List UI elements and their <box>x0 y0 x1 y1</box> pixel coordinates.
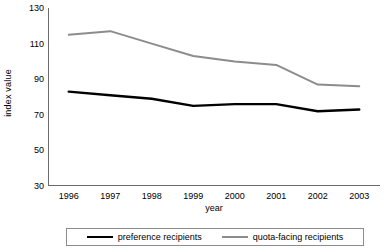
legend-line-swatch <box>87 236 113 238</box>
x-axis-tick: 1997 <box>90 190 132 204</box>
y-axis-tick: 50 <box>16 146 44 155</box>
series-line-1 <box>69 31 360 86</box>
legend-label: quota-facing recipients <box>253 232 344 242</box>
x-axis-tick-labels: 19961997199819992000200120022003 <box>48 190 380 204</box>
y-axis-tick: 110 <box>16 39 44 48</box>
x-axis-tick: 2002 <box>297 190 339 204</box>
x-axis-label: year <box>48 203 380 213</box>
y-axis-tick-labels: 13011090705030 <box>14 0 44 192</box>
y-axis-tick: 30 <box>16 182 44 191</box>
series-line-0 <box>69 92 360 112</box>
x-axis-tick: 1998 <box>131 190 173 204</box>
legend-label: preference recipients <box>118 232 202 242</box>
y-axis-label-text: index value <box>3 69 13 117</box>
y-axis-tick: 130 <box>16 4 44 13</box>
plot-svg <box>48 8 380 186</box>
x-axis-tick: 2003 <box>339 190 381 204</box>
legend-item[interactable]: preference recipients <box>87 232 202 242</box>
chart-legend: preference recipientsquota-facing recipi… <box>66 228 364 246</box>
x-axis-tick: 2000 <box>214 190 256 204</box>
legend-item[interactable]: quota-facing recipients <box>222 232 344 242</box>
y-axis-tick: 90 <box>16 75 44 84</box>
x-axis-tick: 1999 <box>173 190 215 204</box>
legend-line-swatch <box>222 236 248 238</box>
plot-area <box>48 8 380 186</box>
x-axis-tick: 1996 <box>48 190 90 204</box>
chart-figure: index value 13011090705030 1996199719981… <box>0 0 386 252</box>
x-axis-tick: 2001 <box>256 190 298 204</box>
y-axis-tick: 70 <box>16 110 44 119</box>
